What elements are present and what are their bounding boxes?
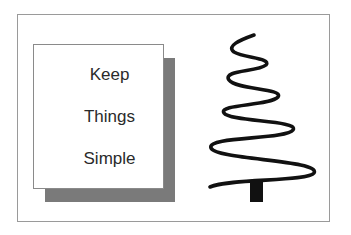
spiral-christmas-tree-icon [0, 0, 351, 235]
